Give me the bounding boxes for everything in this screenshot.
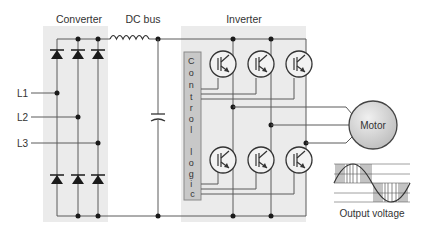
svg-text:L2: L2	[17, 112, 29, 123]
inductor-icon	[110, 36, 149, 40]
igbt-icon	[286, 51, 312, 77]
capacitor-icon	[151, 114, 165, 121]
vfd-diagram: Converter DC bus Inverter	[0, 0, 425, 236]
dc-bus-label: DC bus	[125, 13, 160, 25]
igbt-icon	[286, 147, 312, 173]
motor-label: Motor	[360, 120, 386, 131]
svg-text:L1: L1	[17, 88, 29, 99]
converter-label: Converter	[56, 13, 103, 25]
igbt-icon	[248, 51, 274, 77]
control-logic-box: C o n t r o l l o g i c	[184, 52, 201, 200]
igbt-icon	[210, 147, 236, 173]
motor-icon: Motor	[349, 101, 397, 149]
output-voltage-label: Output voltage	[339, 208, 404, 219]
igbt-icon	[210, 51, 236, 77]
inverter-label: Inverter	[226, 13, 262, 25]
igbt-icon	[248, 147, 274, 173]
svg-text:L3: L3	[17, 138, 29, 149]
output-voltage-waveform: Output voltage	[334, 164, 410, 219]
